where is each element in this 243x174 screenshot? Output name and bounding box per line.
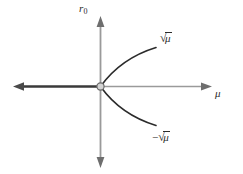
bifurcation-diagram: r0 μ √μ −√μ bbox=[0, 0, 243, 174]
lower-branch-radical: √μ bbox=[158, 131, 170, 143]
bifurcation-point-circle bbox=[97, 83, 104, 90]
upper-branch-curve bbox=[101, 48, 157, 87]
r0-axis-label-subscript: 0 bbox=[83, 7, 87, 16]
r0-axis-bottom-arrowhead bbox=[97, 157, 105, 168]
upper-branch-radicand: μ bbox=[165, 32, 172, 44]
lower-branch-curve bbox=[101, 87, 157, 126]
r0-axis-label: r0 bbox=[79, 3, 87, 16]
mu-axis-right-arrowhead bbox=[201, 83, 212, 91]
mu-axis-label: μ bbox=[215, 88, 221, 99]
upper-branch-label: √μ bbox=[160, 32, 172, 44]
mu-axis-left-arrowhead bbox=[13, 82, 24, 91]
lower-branch-radicand: μ bbox=[163, 131, 170, 143]
upper-branch-radical: √μ bbox=[160, 32, 172, 44]
r0-axis-top-arrowhead bbox=[97, 16, 105, 27]
lower-branch-label: −√μ bbox=[152, 131, 170, 143]
diagram-canvas bbox=[0, 0, 243, 174]
